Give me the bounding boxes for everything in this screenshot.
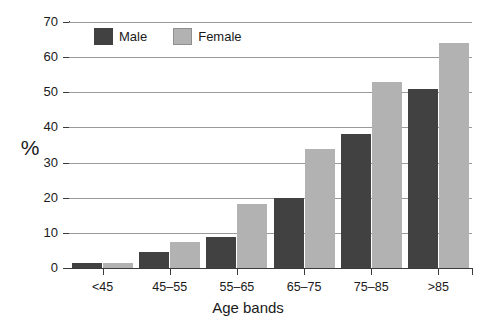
x-axis-tick-label: 55–65 — [220, 280, 255, 294]
legend-label-male: Male — [119, 30, 147, 44]
legend-label-female: Female — [198, 30, 241, 44]
x-axis-tick-label: >85 — [428, 280, 449, 294]
y-axis-tick-label: 50 — [14, 85, 58, 98]
x-axis-tick — [103, 269, 104, 275]
gridline — [69, 22, 472, 23]
bar-female->85 — [439, 43, 469, 268]
x-axis-tick — [371, 269, 372, 275]
legend: Male Female — [94, 28, 242, 45]
gridline — [69, 57, 472, 58]
y-axis-tick-label: 30 — [14, 156, 58, 169]
y-axis-tick-label: 40 — [14, 120, 58, 133]
x-axis-tick — [237, 269, 238, 275]
plot-area — [69, 22, 472, 268]
x-axis-tick-end — [472, 269, 473, 275]
legend-swatch-male-icon — [94, 28, 113, 45]
y-axis-tick-label: 20 — [14, 191, 58, 204]
bar-male-75–85 — [341, 134, 371, 268]
bar-chart: % 010203040506070 <4545–5555–6565–7575–8… — [0, 0, 496, 331]
legend-item-female: Female — [173, 28, 241, 45]
x-axis-tick-label: 65–75 — [287, 280, 322, 294]
y-axis-tick-label: 60 — [14, 50, 58, 63]
x-axis-tick — [170, 269, 171, 275]
legend-item-male: Male — [94, 28, 147, 45]
x-axis-tick-label: 45–55 — [152, 280, 187, 294]
y-axis-tick-label: 0 — [14, 261, 58, 274]
bar-female-65–75 — [305, 149, 335, 268]
x-axis-title: Age bands — [0, 299, 496, 317]
y-axis-tick-label: 10 — [14, 226, 58, 239]
bar-male->85 — [408, 89, 438, 268]
y-axis-tick-label: 70 — [14, 15, 58, 28]
x-axis-tick — [304, 269, 305, 275]
bar-female-55–65 — [237, 204, 267, 268]
x-axis-tick — [438, 269, 439, 275]
bar-male-65–75 — [274, 198, 304, 268]
bar-female-45–55 — [170, 242, 200, 268]
bar-male-45–55 — [139, 252, 169, 268]
x-axis-line — [69, 268, 473, 269]
x-axis-tick-label: <45 — [92, 280, 113, 294]
bar-male-55–65 — [206, 237, 236, 268]
bar-female-75–85 — [372, 82, 402, 268]
legend-swatch-female-icon — [173, 28, 192, 45]
x-axis-tick-label: 75–85 — [354, 280, 389, 294]
